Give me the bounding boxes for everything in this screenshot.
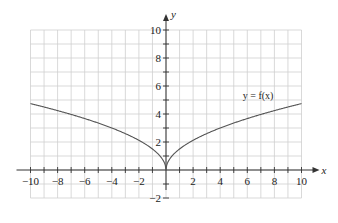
x-tick-label: −6 bbox=[79, 175, 91, 187]
y-tick-label: 4 bbox=[156, 108, 162, 120]
curve-label: y = f(x) bbox=[243, 90, 274, 102]
x-tick-label: −8 bbox=[52, 175, 64, 187]
y-tick-label: 8 bbox=[156, 52, 162, 64]
x-tick-label: −2 bbox=[133, 175, 145, 187]
y-tick-label: 10 bbox=[150, 24, 162, 36]
x-tick-label: −4 bbox=[106, 175, 118, 187]
x-tick-label: 6 bbox=[245, 175, 251, 187]
x-tick-label: 4 bbox=[217, 175, 223, 187]
x-axis-arrow-icon bbox=[313, 167, 320, 173]
function-graph: xy−10−8−6−4−2246810−2246810y = f(x) bbox=[0, 0, 338, 223]
x-tick-label: 8 bbox=[272, 175, 278, 187]
y-tick-label: 2 bbox=[156, 136, 162, 148]
x-tick-label: 2 bbox=[190, 175, 196, 187]
y-tick-label: 6 bbox=[156, 80, 162, 92]
x-tick-label: −10 bbox=[22, 175, 40, 187]
x-axis-label: x bbox=[321, 164, 327, 176]
y-tick-label: −2 bbox=[149, 192, 161, 204]
y-axis-label: y bbox=[170, 8, 176, 20]
y-axis-arrow-icon bbox=[163, 14, 169, 21]
x-tick-label: 10 bbox=[296, 175, 308, 187]
